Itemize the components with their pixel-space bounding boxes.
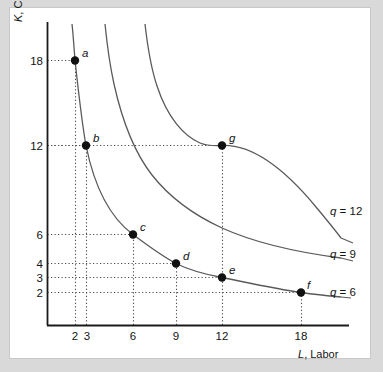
point-label-c: c — [140, 221, 146, 233]
y-tick-2: 2 — [37, 287, 43, 299]
curve-q6 — [72, 24, 341, 297]
curve-label-q6: q = 6 — [330, 286, 356, 298]
chart-svg: a b c d e f g q = 12 q = 9 q = 6 18 — [0, 0, 383, 372]
point-g[interactable] — [218, 141, 226, 149]
curve-label-q9: q = 9 — [330, 248, 356, 260]
y-tick-labels: 18 12 6 4 3 2 — [30, 55, 43, 299]
x-tick-2: 2 — [72, 330, 78, 342]
y-tick-6: 6 — [37, 229, 43, 241]
point-label-b: b — [93, 132, 100, 144]
x-tick-9: 9 — [173, 330, 179, 342]
point-label-f: f — [307, 279, 312, 291]
curve-label-q9-value: = 9 — [336, 248, 356, 260]
point-labels: a b c d e f g — [82, 47, 312, 291]
isoquant-chart: a b c d e f g q = 12 q = 9 q = 6 18 — [0, 0, 383, 372]
point-label-d: d — [183, 250, 190, 262]
point-d[interactable] — [172, 259, 180, 267]
point-b[interactable] — [82, 141, 90, 149]
leader-q12 — [341, 238, 353, 243]
y-axis-title-text: , Capital — [12, 0, 24, 15]
x-tick-3: 3 — [84, 330, 90, 342]
curve-label-q12-value: = 12 — [336, 205, 362, 217]
x-axis-title-text: , Labor — [304, 348, 339, 360]
x-axis-title: L, Labor — [298, 348, 339, 360]
point-c[interactable] — [129, 230, 137, 238]
y-tick-3: 3 — [37, 272, 43, 284]
y-tick-18: 18 — [30, 55, 43, 67]
y-axis-title: K, Capital — [12, 0, 24, 22]
curve-label-q6-value: = 6 — [336, 286, 356, 298]
y-tick-12: 12 — [30, 140, 43, 152]
curve-label-q12: q = 12 — [330, 205, 362, 217]
point-a[interactable] — [71, 56, 79, 64]
point-label-e: e — [229, 264, 235, 276]
curve-labels: q = 12 q = 9 q = 6 — [330, 205, 362, 298]
point-f[interactable] — [297, 288, 305, 296]
point-label-a: a — [82, 47, 88, 59]
axes — [47, 22, 349, 326]
x-tick-6: 6 — [130, 330, 136, 342]
point-e[interactable] — [218, 273, 226, 281]
point-label-g: g — [229, 132, 236, 144]
x-tick-18: 18 — [295, 330, 308, 342]
x-tick-12: 12 — [216, 330, 229, 342]
curve-q12 — [145, 24, 341, 238]
x-tick-labels: 2 3 6 9 12 18 — [72, 330, 308, 342]
y-tick-4: 4 — [37, 258, 44, 270]
